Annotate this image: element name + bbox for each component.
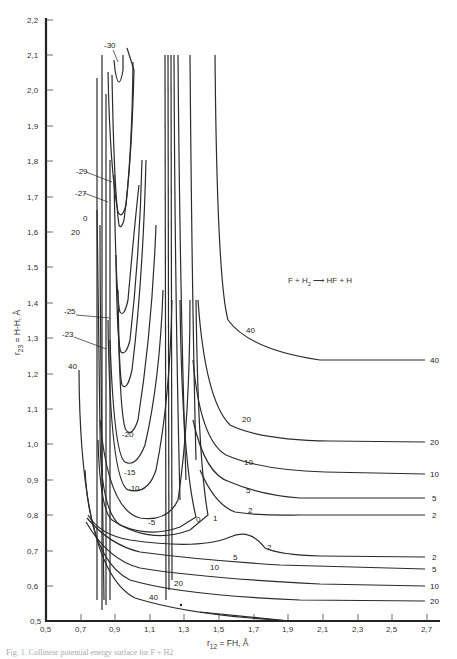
svg-text:-27: -27 bbox=[75, 189, 87, 198]
svg-text:20: 20 bbox=[71, 228, 80, 237]
x-axis-title: r12 = FH, Å bbox=[207, 638, 249, 650]
svg-text:2: 2 bbox=[432, 553, 437, 562]
svg-text:40: 40 bbox=[149, 593, 158, 602]
reaction-annotation: F + H2 ⟶ HF + H bbox=[288, 276, 352, 287]
svg-text:40: 40 bbox=[430, 356, 439, 365]
x-tick-label: 1,1 bbox=[144, 625, 156, 634]
y-tick-label: 1,2 bbox=[27, 370, 39, 379]
svg-text:40: 40 bbox=[246, 326, 255, 335]
svg-text:5: 5 bbox=[432, 565, 437, 574]
y-tick-label: 1,8 bbox=[27, 157, 39, 166]
contour-well-outer-a bbox=[108, 48, 134, 215]
contour-5-product bbox=[193, 420, 425, 498]
x-tick-label: 2,1 bbox=[317, 625, 329, 634]
y-tick-label: 0,7 bbox=[27, 547, 39, 556]
svg-text:-5: -5 bbox=[148, 518, 156, 527]
y-axis-title: r23 = H-H, Å bbox=[12, 309, 24, 355]
x-tick-label: 1,9 bbox=[282, 625, 294, 634]
y-tick-label: 1,4 bbox=[27, 299, 39, 308]
svg-text:2: 2 bbox=[248, 506, 253, 515]
y-tick-label: 0,9 bbox=[27, 476, 39, 485]
contour-10-product bbox=[193, 360, 425, 474]
y-tick-label: 1,6 bbox=[27, 228, 39, 237]
x-tick-label: 2,7 bbox=[421, 625, 433, 634]
y-tick-label: 1,0 bbox=[27, 440, 39, 449]
marked-point bbox=[180, 604, 182, 606]
svg-text:10: 10 bbox=[244, 458, 253, 467]
y-tick-label: 1,5 bbox=[27, 263, 39, 272]
contour-minus-30 bbox=[114, 55, 123, 82]
x-tick-label: 0,5 bbox=[40, 625, 52, 634]
svg-text:40: 40 bbox=[68, 362, 77, 371]
y-tick-labels: 2,2 2,1 2,0 1,9 1,8 1,7 1,6 1,5 1,4 1,3 … bbox=[27, 16, 42, 626]
contour-2-reactant bbox=[88, 515, 425, 557]
contour-2-product bbox=[200, 470, 425, 515]
x-tick-label: 2,3 bbox=[352, 625, 364, 634]
svg-text:10: 10 bbox=[430, 582, 439, 591]
svg-text:2: 2 bbox=[267, 543, 272, 552]
y-tick-label: 2,1 bbox=[27, 51, 39, 60]
y-tick-label: 0,6 bbox=[27, 582, 39, 591]
contour-40-product bbox=[215, 55, 425, 360]
svg-text:-30: -30 bbox=[104, 41, 116, 50]
label-leaders bbox=[74, 50, 118, 349]
x-tick-label: 0,9 bbox=[109, 625, 121, 634]
svg-text:-25: -25 bbox=[64, 307, 76, 316]
x-tick-label: 1,7 bbox=[248, 625, 260, 634]
y-tick-label: 2,0 bbox=[27, 86, 39, 95]
y-tick-label: 0,8 bbox=[27, 511, 39, 520]
x-tick-labels: 0,5 0,7 0,9 1,1 1,3 1,5 1,7 1,9 2,1 2,3 … bbox=[40, 625, 433, 634]
y-tick-label: 2,2 bbox=[27, 16, 39, 25]
svg-text:0: 0 bbox=[196, 515, 201, 524]
svg-text:-15: -15 bbox=[124, 468, 136, 477]
svg-text:5: 5 bbox=[432, 494, 437, 503]
y-tick-label: 1,7 bbox=[27, 193, 39, 202]
svg-text:1: 1 bbox=[213, 514, 218, 523]
y-tick-label: 1,1 bbox=[27, 405, 39, 414]
contour-minus-29 bbox=[112, 62, 133, 227]
svg-text:5: 5 bbox=[246, 486, 251, 495]
x-tick-label: 1,5 bbox=[213, 625, 225, 634]
svg-text:-23: -23 bbox=[62, 330, 74, 339]
svg-text:10: 10 bbox=[430, 470, 439, 479]
svg-text:2: 2 bbox=[432, 511, 437, 520]
svg-text:20: 20 bbox=[242, 415, 251, 424]
contour-20-product bbox=[198, 300, 425, 442]
svg-text:20: 20 bbox=[174, 579, 183, 588]
svg-text:-29: -29 bbox=[76, 167, 88, 176]
svg-text:20: 20 bbox=[430, 438, 439, 447]
figure-caption: Fig. 1. Collinear potential energy surfa… bbox=[6, 648, 173, 657]
y-tick-label: 1,3 bbox=[27, 334, 39, 343]
svg-text:5: 5 bbox=[233, 553, 238, 562]
svg-text:0: 0 bbox=[83, 214, 88, 223]
svg-text:-20: -20 bbox=[122, 430, 134, 439]
x-tick-label: 1,3 bbox=[178, 625, 190, 634]
y-tick-label: 1,9 bbox=[27, 122, 39, 131]
contour-5-reactant bbox=[87, 518, 425, 569]
contour-chart: 2,2 2,1 2,0 1,9 1,8 1,7 1,6 1,5 1,4 1,3 … bbox=[0, 0, 457, 659]
svg-text:-10: -10 bbox=[128, 484, 140, 493]
svg-text:10: 10 bbox=[210, 563, 219, 572]
svg-text:20: 20 bbox=[430, 597, 439, 606]
x-tick-label: 2,5 bbox=[386, 625, 398, 634]
x-tick-label: 0,7 bbox=[75, 625, 87, 634]
